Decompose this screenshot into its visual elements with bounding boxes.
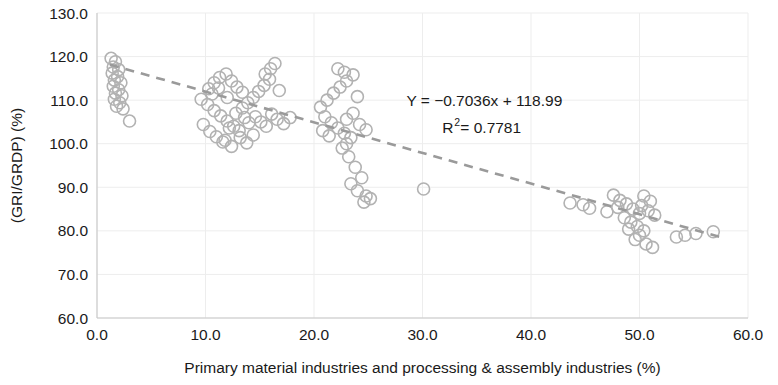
- r-squared-value: = 0.7781: [460, 119, 521, 136]
- data-point: [273, 85, 285, 97]
- data-point: [345, 178, 357, 190]
- x-tick-label: 10.0: [190, 326, 221, 343]
- y-tick-label: 80.0: [58, 222, 89, 239]
- data-point: [564, 197, 576, 209]
- data-point: [124, 115, 136, 127]
- gridlines: [97, 13, 748, 318]
- data-point: [247, 129, 259, 141]
- y-tick-label: 100.0: [49, 135, 88, 152]
- data-point: [197, 119, 209, 131]
- y-axis-title: (GRI/GRDP) (%): [8, 108, 25, 223]
- y-tick-label: 90.0: [58, 179, 89, 196]
- data-points: [105, 52, 719, 253]
- x-tick-label: 30.0: [407, 326, 438, 343]
- data-point: [356, 172, 368, 184]
- scatter-chart-figure: 0.010.020.030.040.050.060.0 60.070.080.0…: [0, 0, 778, 385]
- regression-equation-label: Y = −0.7036x + 118.99: [406, 92, 562, 109]
- chart-canvas: 0.010.020.030.040.050.060.0 60.070.080.0…: [0, 0, 778, 385]
- y-tick-label: 120.0: [49, 48, 88, 65]
- y-tick-labels: 60.070.080.090.0100.0110.0120.0130.0: [49, 5, 88, 327]
- x-axis-title: Primary material industries and processi…: [184, 359, 660, 376]
- data-point: [351, 185, 363, 197]
- x-tick-label: 50.0: [624, 326, 655, 343]
- r-squared-base: R: [442, 119, 453, 136]
- x-tick-label: 40.0: [516, 326, 547, 343]
- x-tick-label: 0.0: [86, 326, 108, 343]
- y-tick-label: 110.0: [50, 92, 88, 109]
- data-point: [418, 183, 430, 195]
- y-tick-label: 70.0: [58, 266, 89, 283]
- y-tick-label: 130.0: [49, 5, 88, 22]
- x-tick-label: 20.0: [299, 326, 330, 343]
- x-tick-labels: 0.010.020.030.040.050.060.0: [86, 326, 763, 343]
- trendline: [110, 65, 721, 238]
- r-squared-label: R 2 = 0.7781: [442, 116, 521, 136]
- y-tick-label: 60.0: [58, 310, 89, 327]
- x-tick-label: 60.0: [733, 326, 764, 343]
- data-point: [670, 231, 682, 243]
- data-point: [623, 223, 635, 235]
- data-point: [351, 91, 363, 103]
